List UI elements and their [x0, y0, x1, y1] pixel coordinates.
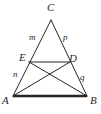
segment-label-n: n: [13, 70, 18, 79]
segment-label-q: q: [80, 73, 85, 82]
segment-be: [29, 62, 87, 96]
vertex-label-a: A: [2, 95, 9, 106]
segment-label-m: m: [29, 33, 36, 42]
vertex-label-e: E: [19, 52, 26, 63]
geometry-figure: C E D A B m p n q: [0, 0, 101, 114]
segment-label-p: p: [63, 33, 68, 42]
vertex-label-c: C: [47, 2, 54, 13]
vertex-label-b: B: [90, 95, 97, 106]
geometry-canvas: [0, 0, 101, 114]
vertex-label-d: D: [69, 53, 77, 64]
